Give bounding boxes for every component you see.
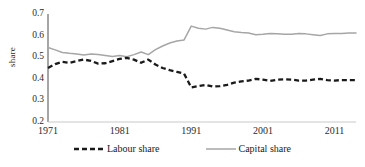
legend-swatch-labour-share [74, 145, 104, 153]
series-line-capital-share [48, 26, 356, 57]
legend-item-capital-share[interactable]: Capital share [206, 144, 291, 154]
x-axis-tick-1981: 1981 [99, 126, 141, 136]
x-axis-tick-1971: 1971 [27, 126, 69, 136]
x-axis-tick-2011: 2011 [314, 126, 356, 136]
series-line-labour-share [48, 58, 356, 88]
legend-label-capital-share: Capital share [239, 144, 291, 154]
legend-swatch-capital-share [206, 145, 236, 153]
chart-legend: Labour share Capital share [0, 144, 365, 154]
legend-label-labour-share: Labour share [107, 144, 159, 154]
data-series-group [48, 26, 356, 87]
plot-area [0, 0, 365, 167]
x-axis-tick-2001: 2001 [242, 126, 284, 136]
legend-item-labour-share[interactable]: Labour share [74, 144, 159, 154]
axis-lines [48, 14, 356, 122]
chart-container: share 0.70.60.50.40.30.2 197119811991200… [0, 0, 365, 167]
x-axis-tick-1991: 1991 [170, 126, 212, 136]
